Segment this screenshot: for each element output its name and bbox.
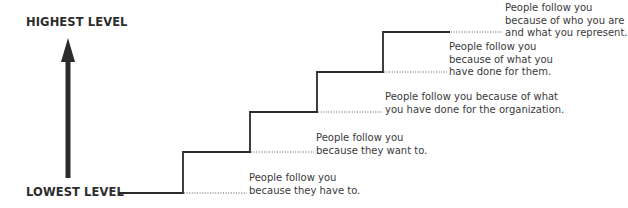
step-5-line-1: People follow you [505,2,628,15]
step-1-label: People follow you because they have to. [249,172,360,197]
step-2-label: People follow you because they want to. [316,132,427,157]
step-2-line-2: because they want to. [316,145,427,158]
step-5-label: People follow you because of who you are… [505,2,628,40]
step-3-line-1: People follow you because of what [385,91,564,104]
step-5-line-3: and what you represent. [505,27,628,40]
up-arrow-icon [61,38,75,178]
step-3-label: People follow you because of what you ha… [385,91,564,116]
step-1-line-1: People follow you [249,172,360,185]
step-5-line-2: because of who you are [505,15,628,28]
step-4-line-1: People follow you [449,41,553,54]
step-4-line-3: have done for them. [449,66,553,79]
step-4-line-2: because of what you [449,54,553,67]
step-4-label: People follow you because of what you ha… [449,41,553,79]
step-1-line-2: because they have to. [249,185,360,198]
step-3-line-2: you have done for the organization. [385,104,564,117]
step-2-line-1: People follow you [316,132,427,145]
